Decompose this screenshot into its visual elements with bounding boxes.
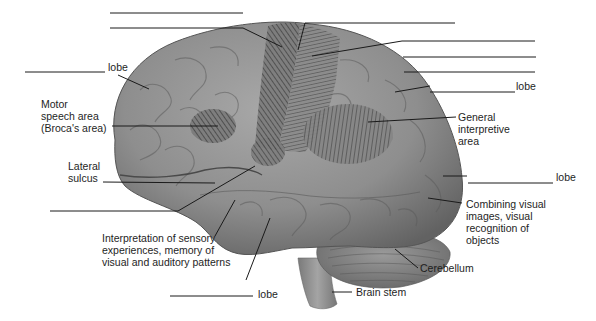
lateral-sulcus-label-line2: sulcus xyxy=(68,172,98,184)
cerebellum-label: Cerebellum xyxy=(420,262,474,274)
general-interpretive-label-line1: General xyxy=(458,111,495,123)
parietal-lobe-label: lobe xyxy=(516,80,536,92)
sensory-interpretation-label-line1: Interpretation of sensory xyxy=(102,232,215,244)
visual-combining-label-line3: recognition of xyxy=(466,222,529,234)
motor-speech-label-line2: speech area xyxy=(41,110,99,122)
motor-speech-label-line3: (Broca's area) xyxy=(41,122,107,134)
general-interpretive-label-line2: interpretive xyxy=(458,123,510,135)
auditory-area xyxy=(251,138,285,166)
general-interpretive-label-line3: area xyxy=(458,135,479,147)
sensory-interpretation-label-line3: visual and auditory patterns xyxy=(102,256,230,268)
temporal-lobe-label: lobe xyxy=(258,288,278,300)
frontal-lobe-label: lobe xyxy=(108,61,128,73)
brain-stem-label: Brain stem xyxy=(356,286,406,298)
general-interpretive-area xyxy=(303,104,393,164)
occipital-lobe-label: lobe xyxy=(556,171,576,183)
sensory-interpretation-label-line2: experiences, memory of xyxy=(102,244,214,256)
brain-diagram: lobe Motor speech area (Broca's area) La… xyxy=(0,0,596,321)
visual-combining-label-line1: Combining visual xyxy=(466,198,546,210)
visual-combining-label-line4: objects xyxy=(466,234,499,246)
motor-speech-label-line1: Motor xyxy=(41,98,68,110)
visual-combining-label-line2: images, visual xyxy=(466,210,533,222)
lateral-sulcus-label-line1: Lateral xyxy=(68,160,100,172)
